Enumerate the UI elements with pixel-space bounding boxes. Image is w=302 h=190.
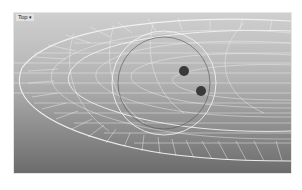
wireframe-mesh [14, 18, 291, 161]
3d-viewport[interactable]: Top▾ [14, 13, 291, 173]
viewport-menu-label[interactable]: Top▾ [16, 14, 34, 21]
wireframe-scene[interactable] [14, 13, 291, 173]
chevron-down-icon: ▾ [29, 14, 32, 20]
viewport-label-text: Top [18, 14, 28, 20]
control-point-1[interactable] [179, 66, 189, 76]
control-point-2[interactable] [196, 86, 206, 96]
